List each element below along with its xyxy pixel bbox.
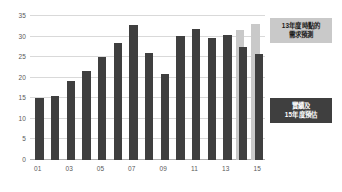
bar-group	[171, 16, 187, 160]
callout-forecast-label: 13年度時點的 需求預測	[270, 18, 332, 43]
bar-group	[46, 16, 62, 160]
bar	[82, 71, 90, 160]
bar-group	[234, 16, 250, 160]
bar-group	[30, 16, 46, 160]
bar	[35, 98, 43, 160]
y-axis-tick-label: 30	[19, 32, 26, 39]
x-axis-tick-label: 15	[253, 165, 260, 172]
bar	[98, 57, 106, 160]
x-axis-tick-label: 07	[128, 165, 135, 172]
bar	[223, 35, 231, 160]
bar	[67, 81, 75, 160]
bar-group	[108, 16, 124, 160]
bar-group	[155, 16, 171, 160]
callout-actual-line-1: 實績及	[272, 101, 330, 110]
bar	[176, 36, 184, 160]
bars-layer	[30, 16, 265, 160]
x-axis-tick-label: 09	[159, 165, 166, 172]
y-axis-tick-label: 10	[19, 114, 26, 121]
x-axis-tick-label: 13	[222, 165, 229, 172]
x-axis-tick-label: 05	[97, 165, 104, 172]
bar-group	[218, 16, 234, 160]
bar	[129, 25, 137, 160]
bar-group	[124, 16, 140, 160]
bar	[208, 38, 216, 160]
callout-forecast-line-1: 13年度時點的	[272, 21, 330, 30]
bar-group	[202, 16, 218, 160]
y-axis-tick-label: 5	[22, 135, 26, 142]
x-axis-tick-label: 03	[65, 165, 72, 172]
bar	[255, 54, 263, 160]
callout-actual-label: 實績及 15年度預估	[270, 98, 332, 123]
bar-group	[187, 16, 203, 160]
bar-group	[140, 16, 156, 160]
callout-actual-line-2: 15年度預估	[272, 110, 330, 119]
bar-chart: 05101520253035 0103050709111315 13年度時點的 …	[0, 0, 342, 192]
bar	[145, 53, 153, 160]
bar	[239, 47, 247, 160]
y-axis-tick-label: 0	[22, 156, 26, 163]
bar-group	[61, 16, 77, 160]
x-axis-tick-label: 01	[34, 165, 41, 172]
bar-group	[77, 16, 93, 160]
x-axis-tick-label: 11	[191, 165, 198, 172]
y-axis-tick-label: 35	[19, 12, 26, 19]
bar	[114, 43, 122, 160]
bar	[161, 74, 169, 160]
bar-group	[93, 16, 109, 160]
plot-area: 05101520253035 0103050709111315	[30, 16, 265, 160]
bar	[192, 29, 200, 160]
y-axis-tick-label: 15	[19, 94, 26, 101]
bar-group	[249, 16, 265, 160]
callout-forecast-line-2: 需求預測	[272, 30, 330, 39]
y-axis-tick-label: 25	[19, 53, 26, 60]
bar	[51, 96, 59, 160]
y-axis-tick-label: 20	[19, 73, 26, 80]
